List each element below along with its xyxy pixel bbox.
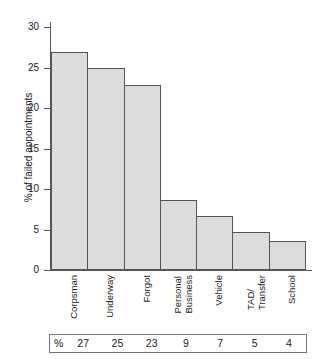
y-axis-tick [44,108,51,109]
x-axis-label: Vehicle [214,275,225,306]
y-axis-tick-label: 10 [0,184,39,194]
x-axis-label: PersonalBusiness [173,275,194,314]
value-table-cell: 4 [272,335,306,352]
x-axis-label-slot: TAD/Transfer [232,271,268,329]
bar [87,68,124,270]
y-axis-tick-label: 30 [0,22,39,32]
bar-series [51,22,305,270]
bar-chart-figure: % of failed appointments 051015202530 Co… [0,0,320,359]
value-table: % 2725239754 [49,334,307,353]
x-axis-label-slot: PersonalBusiness [160,271,196,329]
value-table-cell: 25 [100,335,134,352]
value-table-cell: 9 [169,335,203,352]
x-axis-label: TAD/Transfer [246,275,267,310]
y-axis-tick-label: 15 [0,144,39,154]
bar [160,200,197,270]
bar [196,216,233,270]
bar [124,85,161,270]
value-table-cell: 27 [66,335,100,352]
bar [269,241,306,270]
y-axis-tick [44,27,51,28]
bar [232,232,269,270]
y-axis-tick [44,230,51,231]
x-axis-category-labels: CorpsmanUnderwayForgotPersonalBusinessVe… [51,271,305,329]
y-axis-tick-label: 20 [0,103,39,113]
x-axis-label: Corpsman [69,275,80,319]
x-axis-label: Underway [105,275,116,318]
x-axis-label-slot: Vehicle [196,271,232,329]
value-table-cell: 5 [237,335,271,352]
bar [51,52,88,270]
y-axis-tick-label: 0 [0,265,39,275]
y-axis-tick-label: 5 [0,225,39,235]
y-axis-tick [44,149,51,150]
y-axis-tick [44,270,51,271]
x-axis-label-slot: Corpsman [51,271,87,329]
y-axis-tick [44,68,51,69]
x-axis-label-slot: School [269,271,305,329]
y-axis-tick-label: 25 [0,63,39,73]
value-table-cell: 7 [203,335,237,352]
value-table-percent-symbol: % [54,335,63,352]
x-axis-label-slot: Forgot [124,271,160,329]
x-axis-label: Forgot [142,275,153,302]
value-table-cell: 23 [135,335,169,352]
y-axis-tick [44,189,51,190]
x-axis-label: School [287,275,298,304]
x-axis-label-slot: Underway [87,271,123,329]
